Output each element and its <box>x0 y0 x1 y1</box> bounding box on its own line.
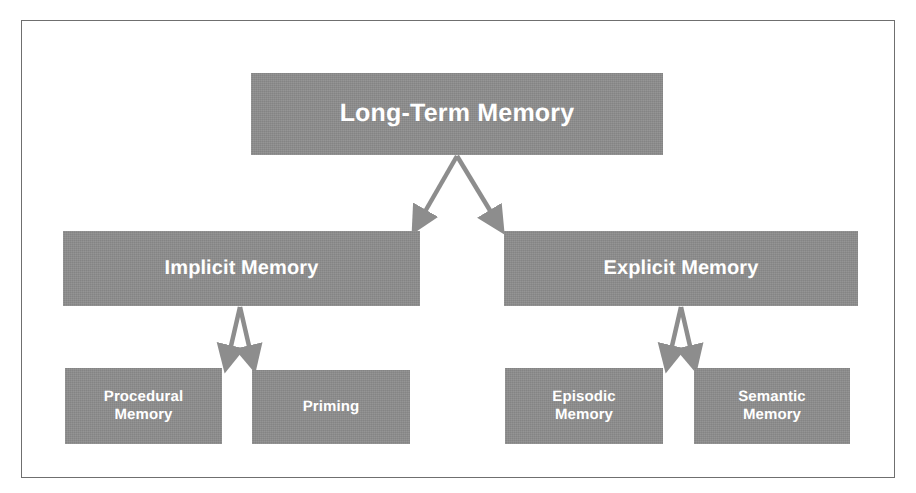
node-episodic-memory: Episodic Memory <box>505 368 663 444</box>
node-episodic-memory-label: Episodic Memory <box>546 388 621 423</box>
node-implicit-memory: Implicit Memory <box>63 231 420 306</box>
node-long-term-memory-label: Long-Term Memory <box>334 99 581 129</box>
node-explicit-memory: Explicit Memory <box>504 231 858 306</box>
node-long-term-memory: Long-Term Memory <box>251 73 663 155</box>
node-procedural-memory-label: Procedural Memory <box>98 388 189 423</box>
node-semantic-memory-label: Semantic Memory <box>732 388 812 423</box>
diagram-canvas: Long-Term Memory Implicit Memory Explici… <box>0 0 916 493</box>
node-explicit-memory-label: Explicit Memory <box>598 257 765 281</box>
node-implicit-memory-label: Implicit Memory <box>159 257 325 281</box>
edge-root-to-implicit <box>419 156 457 222</box>
edge-explicit-to-episodic <box>669 307 681 359</box>
node-semantic-memory: Semantic Memory <box>694 368 850 444</box>
edge-explicit-to-semantic <box>681 307 693 359</box>
node-priming: Priming <box>252 370 410 444</box>
edge-implicit-to-priming <box>240 307 252 359</box>
node-priming-label: Priming <box>297 398 366 416</box>
edge-implicit-to-procedural <box>228 307 240 359</box>
edge-root-to-explicit <box>457 156 497 222</box>
node-procedural-memory: Procedural Memory <box>65 368 222 444</box>
